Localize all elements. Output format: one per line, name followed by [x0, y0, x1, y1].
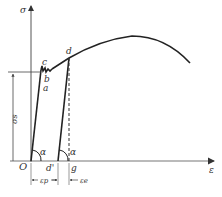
angle-label-right: α: [70, 147, 76, 157]
plastic-strain-label: εp: [40, 177, 49, 185]
origin-label: O: [19, 161, 27, 172]
angle-arc-right: [60, 150, 69, 161]
sigma-axis-label: σ: [20, 5, 27, 15]
point-a-label: a: [43, 83, 48, 93]
angle-label-left: α: [40, 147, 46, 157]
point-g-label: g: [71, 163, 77, 173]
unloading-line: [58, 58, 69, 161]
point-d-label: d: [66, 46, 72, 56]
point-c-label: c: [42, 57, 47, 67]
elastic-strain-label: εe: [80, 177, 88, 185]
hardening-curve: [52, 36, 190, 69]
yield-stress-label: σs: [10, 114, 19, 124]
stress-strain-diagram: σ ε O c b a d d' g α α σs εp εe: [0, 0, 222, 197]
point-d-prime-label: d': [46, 163, 54, 173]
epsilon-axis-label: ε: [209, 165, 214, 175]
